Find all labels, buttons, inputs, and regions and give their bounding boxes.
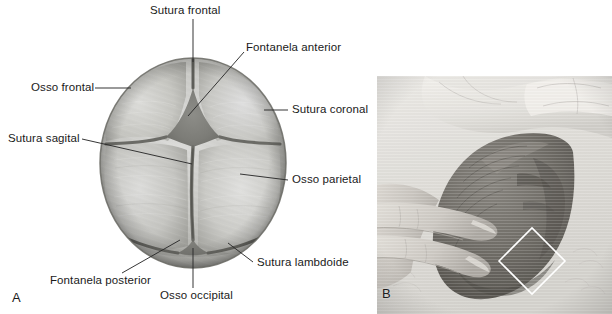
skull-body — [100, 58, 286, 270]
label-sutura-frontal: Sutura frontal — [150, 4, 220, 16]
label-osso-frontal: Osso frontal — [31, 81, 94, 93]
figure-container: Sutura frontal Fontanela anterior Osso f… — [0, 0, 612, 314]
infant-fontanelle-photo-svg — [377, 76, 612, 314]
panel-a-illustration: Sutura frontal Fontanela anterior Osso f… — [0, 0, 372, 314]
panel-b-photograph — [377, 76, 612, 314]
label-osso-occipital: Osso occipital — [160, 289, 233, 301]
panel-b-letter: B — [382, 286, 391, 301]
panel-a-letter: A — [12, 290, 21, 305]
label-sutura-sagital: Sutura sagital — [8, 132, 80, 144]
label-fontanela-anterior: Fontanela anterior — [246, 41, 341, 53]
photo-vignette — [377, 76, 612, 314]
label-osso-parietal: Osso parietal — [292, 173, 361, 185]
label-fontanela-posterior: Fontanela posterior — [50, 274, 151, 286]
label-sutura-coronal: Sutura coronal — [292, 103, 368, 115]
label-sutura-lambdoide: Sutura lambdoide — [257, 256, 349, 268]
